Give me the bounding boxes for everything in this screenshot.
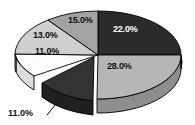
pie-label-28: 28.0%: [107, 62, 132, 71]
pie-label-22: 22.0%: [113, 25, 138, 34]
pie-label-11-white: 11.0%: [35, 47, 59, 56]
pie-chart-graphic: [0, 0, 195, 125]
callout-leader-line: [47, 104, 56, 115]
pie-label-13: 13.0%: [33, 31, 58, 40]
pie-slice-22: [98, 11, 181, 55]
pie-chart: 22.0% 28.0% 15.0% 13.0% 11.0% 11.0%: [0, 0, 195, 125]
pie-label-11-callout: 11.0%: [8, 109, 33, 118]
pie-label-15: 15.0%: [68, 16, 93, 25]
